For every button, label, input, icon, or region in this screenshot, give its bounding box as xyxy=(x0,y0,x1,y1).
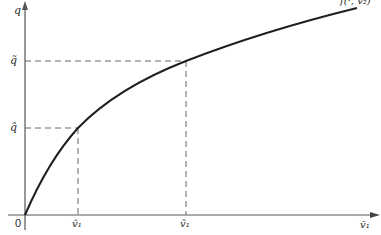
x-axis-arrow-icon xyxy=(370,212,380,218)
y-axis-arrow-icon xyxy=(22,1,28,10)
q-tilde-label: q̃ xyxy=(10,55,17,66)
origin-label: 0 xyxy=(15,218,21,229)
production-curve xyxy=(25,8,357,215)
v-hat-label: v̂₁ xyxy=(72,219,82,229)
x-axis-label: v̄₁ xyxy=(360,220,370,230)
v-tilde-label: ṽ₁ xyxy=(180,219,190,229)
diagram-canvas xyxy=(0,0,381,235)
q-hat-label: q̂ xyxy=(10,122,17,133)
curve-label: f(·, v̄₂) xyxy=(340,0,371,6)
y-axis-label: q xyxy=(14,5,21,16)
